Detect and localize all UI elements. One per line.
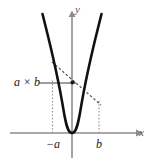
parabola-figure: a × b −a b y x [0, 0, 148, 162]
x-tick-label-left-text: −a [46, 137, 60, 152]
x-axis-label: x [139, 125, 148, 139]
x-tick-label-left: −a [39, 136, 67, 152]
y-axis-label-text: y [75, 3, 80, 15]
x-axis-label-text: x [139, 126, 144, 138]
x-tick-label-right-text: b [96, 137, 102, 152]
product-label-text: a × b [14, 75, 40, 90]
x-tick-label-right: b [90, 136, 108, 152]
y-axis-label: y [75, 2, 89, 16]
product-label: a × b [6, 74, 40, 91]
chord-y-intercept-marker [70, 80, 74, 84]
